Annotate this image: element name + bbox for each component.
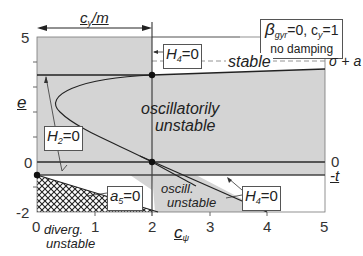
- x-tick-3: 3: [206, 219, 214, 234]
- shade-top-left: [37, 37, 152, 75]
- h4b-h: H: [245, 187, 256, 204]
- point-left: [34, 172, 40, 178]
- y-tick-0: 0: [24, 155, 32, 170]
- h2-h: H: [47, 127, 58, 144]
- h2-label: H2=0: [44, 126, 83, 151]
- x-label-c: c: [174, 223, 183, 242]
- params-line2: no damping: [265, 43, 338, 56]
- oscill-unstable-label: oscill. unstable: [161, 182, 216, 210]
- h4t-rest: =0: [182, 45, 199, 62]
- cy-m-label: cy/m: [80, 10, 109, 28]
- x-tick-4: 4: [263, 219, 271, 234]
- point-upper: [149, 72, 155, 78]
- point-middle: [149, 159, 155, 165]
- x-label-sub: ψ: [183, 233, 190, 243]
- x-tick-5: 5: [320, 219, 328, 234]
- minus-t-label: -t: [330, 168, 339, 183]
- cy-c: c: [80, 9, 88, 26]
- h4b-rest: =0: [261, 187, 278, 204]
- y-tick-5: 5: [21, 30, 29, 45]
- x-tick-2: 2: [148, 219, 156, 234]
- diverg-unstable-label: diverg. unstable: [44, 223, 95, 251]
- params-end: =1: [322, 22, 338, 38]
- params-line1: βgyr=0, cy=1: [265, 22, 338, 43]
- x-axis-label: cψ: [174, 224, 189, 243]
- h4-bottom-label: H4=0: [242, 186, 281, 211]
- osc-unstable-label: oscillatorily unstable: [141, 100, 219, 134]
- cy-m-rest: /m: [92, 9, 109, 26]
- a5-label: a5=0: [107, 186, 143, 211]
- sigma-a-label: σ + a: [329, 54, 361, 68]
- diverg-line2: unstable: [46, 237, 95, 251]
- osc-line1: oscillatorily: [141, 100, 219, 117]
- h4-top-label: H4=0: [163, 44, 202, 69]
- params-mid: =0, c: [287, 22, 318, 38]
- y-axis-label: e: [17, 94, 26, 111]
- h4t-h: H: [166, 45, 177, 62]
- beta-symbol: β: [265, 20, 275, 39]
- osc-line2: unstable: [151, 117, 219, 134]
- diverg-line1: diverg.: [44, 223, 95, 237]
- oscill-line1: oscill.: [161, 182, 216, 196]
- a5-rest: =0: [123, 187, 140, 204]
- beta-sub: gyr: [275, 30, 288, 40]
- h2-rest: =0: [63, 127, 80, 144]
- x-tick-0: 0: [32, 219, 40, 234]
- y-tick-minus2: -2: [16, 205, 29, 220]
- oscill-line2: unstable: [167, 196, 216, 210]
- stable-region-label: stable: [226, 53, 273, 70]
